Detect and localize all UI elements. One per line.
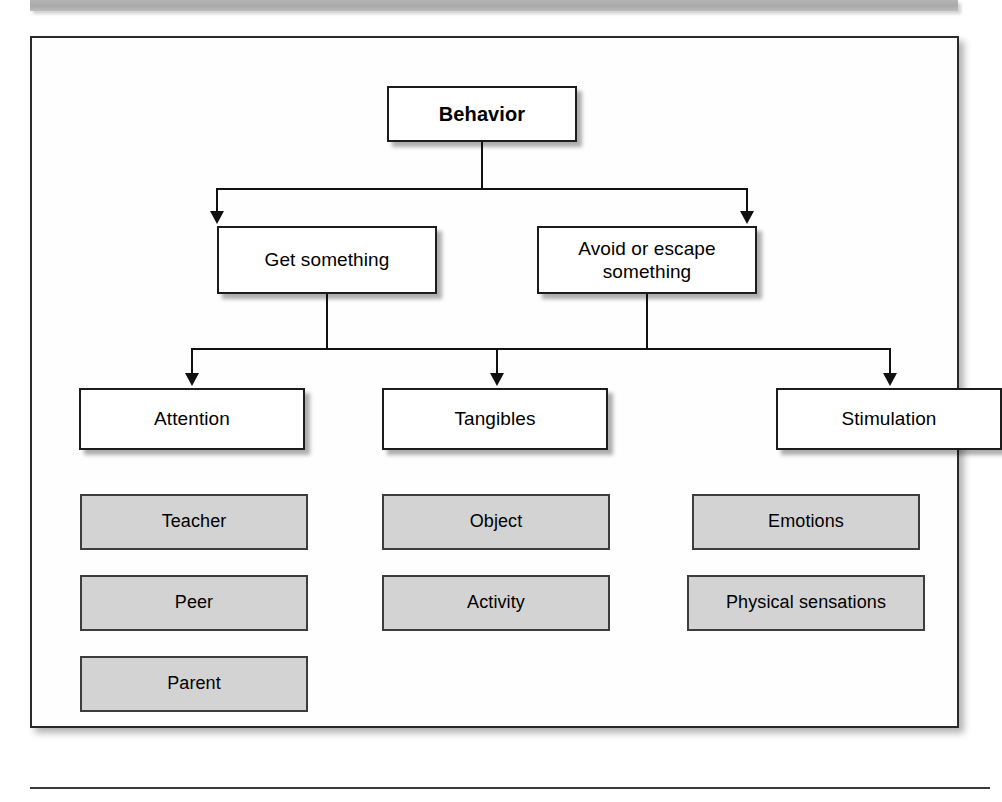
node-tangibles-label: Tangibles [446, 407, 543, 430]
page-bottom-rule [30, 787, 990, 789]
example-box-physical-sensations-label: Physical sensations [718, 592, 894, 614]
connector-root-bus [216, 188, 748, 190]
example-box-physical-sensations: Physical sensations [687, 575, 925, 631]
connector-get-stem [326, 294, 328, 350]
node-avoid-or-escape-something: Avoid or escape something [537, 226, 757, 294]
example-box-parent-label: Parent [159, 673, 229, 695]
node-avoid-or-escape-something-label: Avoid or escape something [570, 237, 723, 283]
example-box-activity: Activity [382, 575, 610, 631]
example-box-teacher: Teacher [80, 494, 308, 550]
example-box-emotions-label: Emotions [760, 511, 852, 533]
arrow-bus-to-tangibles-icon [490, 373, 504, 386]
connector-avoid-stem [646, 294, 648, 350]
connector-bus-to-stimulation [889, 348, 891, 376]
arrow-bus-to-stimulation-icon [883, 373, 897, 386]
example-box-activity-label: Activity [459, 592, 533, 614]
example-box-object-label: Object [462, 511, 531, 533]
arrow-root-to-get-icon [210, 211, 224, 224]
example-box-peer: Peer [80, 575, 308, 631]
node-behavior: Behavior [387, 86, 577, 142]
node-avoid-line-2: something [603, 261, 692, 282]
connector-bus-to-attention [191, 348, 193, 376]
connector-root-stem [481, 142, 483, 190]
node-get-something: Get something [217, 226, 437, 294]
example-box-peer-label: Peer [167, 592, 221, 614]
example-box-emotions: Emotions [692, 494, 920, 550]
node-stimulation: Stimulation [776, 388, 1002, 450]
example-box-parent: Parent [80, 656, 308, 712]
figure-frame: Behavior Get something Avoid or escape s… [30, 36, 959, 728]
node-behavior-label: Behavior [431, 102, 533, 126]
node-attention: Attention [79, 388, 305, 450]
node-stimulation-label: Stimulation [833, 407, 944, 430]
arrow-bus-to-attention-icon [185, 373, 199, 386]
connector-bus-to-tangibles [496, 348, 498, 376]
node-attention-label: Attention [146, 407, 238, 430]
node-tangibles: Tangibles [382, 388, 608, 450]
example-box-teacher-label: Teacher [154, 511, 235, 533]
page-banner-strip [30, 0, 958, 11]
arrow-root-to-avoid-icon [740, 211, 754, 224]
example-box-object: Object [382, 494, 610, 550]
connector-category-bus [191, 348, 891, 350]
node-get-something-label: Get something [257, 248, 398, 271]
node-avoid-line-1: Avoid or escape [578, 238, 715, 259]
